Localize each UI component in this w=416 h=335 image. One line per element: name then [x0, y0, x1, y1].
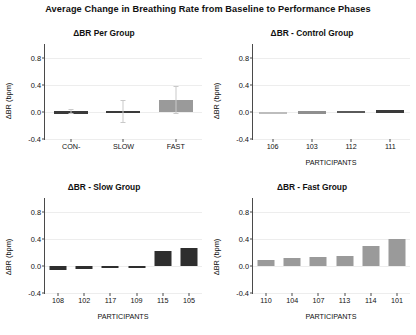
x-tick-label: 109: [131, 296, 143, 305]
bar-group: 114: [358, 198, 384, 293]
bar-group: 112: [332, 44, 371, 139]
x-tick-label: 114: [365, 296, 376, 305]
bar[interactable]: [180, 248, 197, 266]
y-tick-label: 0.8: [31, 53, 41, 62]
error-bar-cap: [173, 113, 178, 114]
bar[interactable]: [388, 239, 405, 265]
y-tick-label: 0.8: [239, 53, 249, 62]
error-bar-cap: [121, 100, 126, 101]
y-axis-label: ΔBR (bpm): [4, 83, 13, 120]
y-tick-label: 0.8: [239, 207, 249, 216]
panel-title: ΔBR - Slow Group: [0, 182, 208, 192]
bar[interactable]: [50, 266, 67, 270]
bar-group: 104: [279, 198, 305, 293]
panel-delta-br-control-group: ΔBR - Control Group ΔBR (bpm) -0.40.00.4…: [208, 28, 416, 174]
bar[interactable]: [284, 258, 301, 266]
error-bar: [175, 86, 176, 113]
x-tick-label: 112: [345, 142, 356, 151]
x-tick-label: 106: [267, 142, 279, 151]
x-tick-label: 110: [260, 296, 271, 305]
panel-delta-br-per-group: ΔBR Per Group ΔBR (bpm) -0.40.00.40.8CON…: [0, 28, 208, 174]
y-tick-label: -0.4: [236, 135, 249, 144]
bar-group: 109: [124, 198, 150, 293]
x-tick-label: 108: [52, 296, 64, 305]
bar-group: 113: [332, 198, 358, 293]
bar-group: CON-: [45, 44, 97, 139]
y-tick-label: 0.4: [31, 80, 41, 89]
error-bar-cap: [69, 113, 74, 114]
y-axis-label: ΔBR (bpm): [4, 239, 13, 276]
error-bar: [123, 100, 124, 122]
bar-group: 107: [305, 198, 331, 293]
figure-title: Average Change in Breathing Rate from Ba…: [0, 4, 416, 14]
x-tick-label: 103: [306, 142, 318, 151]
bar-group: 110: [253, 198, 279, 293]
x-axis-label: PARTICIPANTS: [252, 158, 410, 167]
x-tick-label: SLOW: [113, 142, 134, 151]
y-tick-label: 0.8: [31, 207, 41, 216]
x-tick-label: 115: [157, 296, 168, 305]
y-gridline: [45, 293, 202, 294]
bar-series: 110104107113114101: [253, 198, 410, 293]
bar[interactable]: [102, 266, 119, 269]
bar[interactable]: [128, 266, 145, 269]
y-tick-label: -0.4: [28, 135, 41, 144]
y-tick-label: 0.4: [239, 234, 249, 243]
y-tick-label: 0.0: [239, 261, 249, 270]
y-tick-label: 0.0: [31, 107, 41, 116]
plot-area: -0.40.00.40.8108102117109115105: [44, 198, 202, 294]
y-tick-label: 0.0: [31, 261, 41, 270]
panel-delta-br-slow-group: ΔBR - Slow Group ΔBR (bpm) -0.40.00.40.8…: [0, 182, 208, 332]
y-tick-label: 0.4: [239, 80, 249, 89]
x-tick-label: 102: [78, 296, 90, 305]
x-tick-label: 101: [391, 296, 403, 305]
y-axis-label: ΔBR (bpm): [212, 239, 221, 276]
bar[interactable]: [336, 256, 353, 266]
y-gridline: [253, 293, 410, 294]
bar-group: 105: [176, 198, 202, 293]
bar-group: 117: [97, 198, 123, 293]
bar[interactable]: [362, 246, 379, 266]
y-gridline: [253, 139, 410, 140]
bar-group: FAST: [150, 44, 202, 139]
y-tick-label: -0.4: [28, 289, 41, 298]
x-tick-label: CON-: [62, 142, 80, 151]
plot-area: -0.40.00.40.8106103112111: [252, 44, 410, 140]
bar-group: 102: [71, 198, 97, 293]
figure-canvas: Average Change in Breathing Rate from Ba…: [0, 0, 416, 335]
error-bar-cap: [173, 86, 178, 87]
bar[interactable]: [76, 266, 93, 269]
bar-series: 108102117109115105: [45, 198, 202, 293]
y-tick-label: 0.4: [31, 234, 41, 243]
x-tick-label: 113: [339, 296, 350, 305]
error-bar-cap: [69, 109, 74, 110]
bar-group: 103: [292, 44, 331, 139]
panel-title: ΔBR - Control Group: [208, 28, 416, 38]
bar[interactable]: [259, 112, 287, 115]
x-tick-label: 105: [183, 296, 195, 305]
bar-group: 115: [150, 198, 176, 293]
bar[interactable]: [298, 111, 326, 114]
error-bar-cap: [121, 122, 126, 123]
bar-group: 101: [384, 198, 410, 293]
x-tick-label: 104: [286, 296, 298, 305]
y-axis-label: ΔBR (bpm): [212, 83, 221, 120]
x-tick-label: 107: [312, 296, 324, 305]
x-tick-label: FAST: [167, 142, 185, 151]
bar-series: 106103112111: [253, 44, 410, 139]
bar-series: CON-SLOWFAST: [45, 44, 202, 139]
bar-group: SLOW: [97, 44, 149, 139]
bar-group: 108: [45, 198, 71, 293]
bar-group: 111: [371, 44, 410, 139]
bar[interactable]: [337, 111, 365, 114]
y-tick-label: -0.4: [236, 289, 249, 298]
panel-delta-br-fast-group: ΔBR - Fast Group ΔBR (bpm) -0.40.00.40.8…: [208, 182, 416, 332]
x-axis-label: PARTICIPANTS: [252, 312, 410, 321]
bar[interactable]: [376, 110, 404, 113]
panel-title: ΔBR Per Group: [0, 28, 208, 38]
x-tick-label: 111: [385, 142, 396, 151]
bar[interactable]: [258, 260, 275, 266]
bar[interactable]: [154, 251, 171, 266]
plot-area: -0.40.00.40.8110104107113114101: [252, 198, 410, 294]
bar[interactable]: [310, 257, 327, 266]
